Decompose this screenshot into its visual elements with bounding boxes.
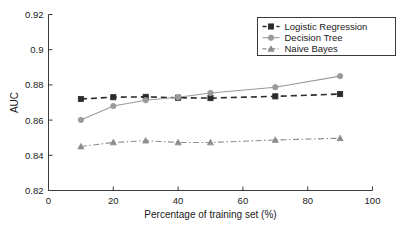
y-axis-tick-label: 0.84 <box>25 150 44 161</box>
y-axis-tick-label: 0.92 <box>25 9 44 20</box>
data-point <box>143 98 148 103</box>
data-point <box>338 91 343 96</box>
auc-line-chart: 0.820.840.860.880.90.92020406080100Perce… <box>0 0 403 239</box>
data-point <box>208 90 213 95</box>
y-axis-tick-label: 0.88 <box>25 79 44 90</box>
legend-entry-label: Decision Tree <box>285 32 343 43</box>
y-axis-tick-label: 0.86 <box>25 115 44 126</box>
legend-entry-label: Naive Bayes <box>285 43 339 54</box>
data-point <box>175 139 181 145</box>
data-point <box>175 95 180 100</box>
series-naive-bayes <box>78 135 343 149</box>
x-axis-tick-label: 40 <box>173 195 184 206</box>
data-point <box>78 117 83 122</box>
data-point <box>78 96 83 101</box>
legend-marker-sample <box>268 35 273 40</box>
data-point <box>337 73 342 78</box>
data-point <box>337 135 343 141</box>
data-point <box>208 96 213 101</box>
x-axis-tick-label: 0 <box>46 195 51 206</box>
y-axis-tick-label: 0.82 <box>25 185 44 196</box>
data-point <box>273 94 278 99</box>
y-axis-title: AUC <box>9 92 20 113</box>
legend-marker-sample <box>268 24 273 29</box>
data-point <box>273 84 278 89</box>
x-axis-tick-label: 100 <box>365 195 381 206</box>
data-point <box>111 103 116 108</box>
legend-entry-label: Logistic Regression <box>285 21 368 32</box>
x-axis-tick-label: 60 <box>238 195 249 206</box>
x-axis-tick-label: 20 <box>108 195 119 206</box>
x-axis-tick-label: 80 <box>302 195 313 206</box>
data-point <box>111 95 116 100</box>
chart-legend[interactable]: Logistic RegressionDecision TreeNaive Ba… <box>258 18 396 56</box>
y-axis-tick-label: 0.9 <box>30 44 43 55</box>
chart-figure: 0.820.840.860.880.90.92020406080100Perce… <box>0 0 403 239</box>
x-axis-title: Percentage of training set (%) <box>144 209 276 220</box>
plot-series <box>78 73 343 148</box>
